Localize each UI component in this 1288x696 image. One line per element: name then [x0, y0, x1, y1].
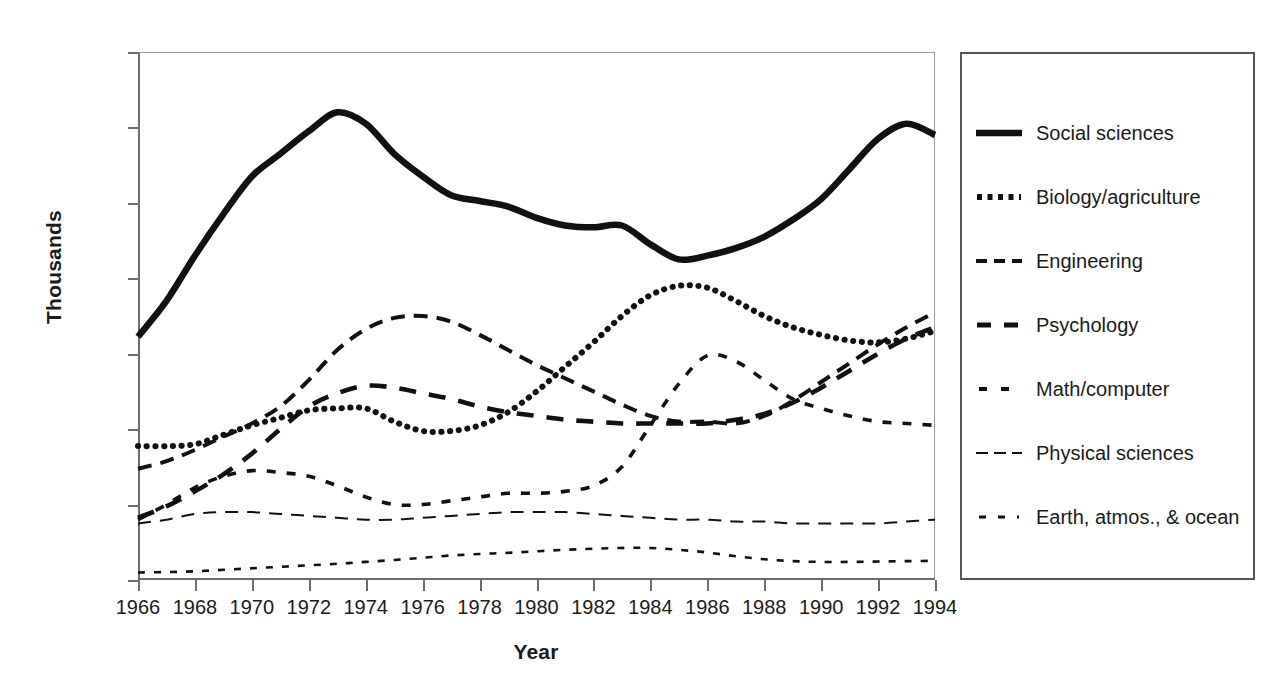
y-tick-mark: [128, 429, 138, 431]
legend-line-sample-icon: [962, 254, 1036, 268]
legend-item[interactable]: Biology/agriculture: [962, 182, 1257, 212]
x-tick-mark: [821, 580, 823, 591]
x-tick-mark: [423, 580, 425, 591]
legend-item-label: Social sciences: [1036, 122, 1174, 144]
legend-item[interactable]: Engineering: [962, 246, 1257, 276]
legend-item-label: Engineering: [1036, 250, 1143, 272]
legend-line-sample-icon: [962, 190, 1036, 204]
legend-line-sample-icon: [962, 510, 1036, 524]
legend: Social sciencesBiology/agricultureEngine…: [960, 52, 1255, 580]
y-tick-mark: [128, 52, 138, 54]
x-tick-mark: [935, 580, 937, 591]
x-tick-mark: [537, 580, 539, 591]
legend-item[interactable]: Math/computer: [962, 374, 1257, 404]
legend-item-label: Earth, atmos., & ocean: [1036, 506, 1239, 528]
x-tick-mark: [138, 580, 140, 591]
legend-item-label: Psychology: [1036, 314, 1138, 336]
y-axis-title: Thousands: [42, 177, 66, 357]
legend-line-sample-icon: [962, 382, 1036, 396]
legend-item-label: Biology/agriculture: [1036, 186, 1201, 208]
legend-item[interactable]: Social sciences: [962, 118, 1257, 148]
chart-figure: 020406080100120140 196619681970197219741…: [0, 0, 1288, 696]
legend-line-sample-icon: [962, 318, 1036, 332]
plot-area-frame: [138, 52, 935, 580]
y-tick-mark: [128, 203, 138, 205]
legend-item[interactable]: Psychology: [962, 310, 1257, 340]
x-tick-mark: [366, 580, 368, 591]
y-tick-mark: [128, 505, 138, 507]
x-tick-mark: [650, 580, 652, 591]
y-tick-mark: [128, 278, 138, 280]
x-tick-mark: [707, 580, 709, 591]
legend-line-sample-icon: [962, 446, 1036, 460]
x-tick-mark: [878, 580, 880, 591]
legend-item[interactable]: Physical sciences: [962, 438, 1257, 468]
x-tick-mark: [593, 580, 595, 591]
x-tick-mark: [309, 580, 311, 591]
x-tick-mark: [195, 580, 197, 591]
x-tick-mark: [764, 580, 766, 591]
y-tick-mark: [128, 127, 138, 129]
legend-item[interactable]: Earth, atmos., & ocean: [962, 502, 1257, 532]
y-tick-mark: [128, 580, 138, 582]
x-tick-mark: [252, 580, 254, 591]
x-tick-mark: [480, 580, 482, 591]
legend-line-sample-icon: [962, 126, 1036, 140]
x-axis-title: Year: [0, 640, 1072, 664]
legend-item-label: Math/computer: [1036, 378, 1169, 400]
x-tick-label: 1994: [900, 596, 970, 618]
legend-item-label: Physical sciences: [1036, 442, 1194, 464]
y-tick-mark: [128, 354, 138, 356]
